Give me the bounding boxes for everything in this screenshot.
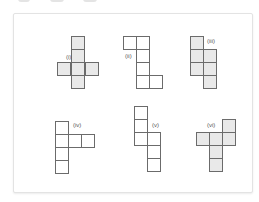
net-square: [135, 120, 148, 133]
net-square: [204, 63, 217, 76]
net-square: [137, 63, 150, 76]
net-square: [210, 146, 223, 159]
cube-net-6: (vi): [197, 120, 236, 172]
net-square: [197, 133, 210, 146]
net-square: [72, 37, 85, 50]
cube-nets-diagram: (i)(ii)(iii)(iv)(v)(vi): [0, 0, 259, 202]
net-square: [137, 76, 150, 89]
net-square: [210, 133, 223, 146]
net-square: [72, 50, 85, 63]
net-label: (ii): [125, 53, 132, 59]
net-square: [223, 133, 236, 146]
net-square: [56, 148, 69, 161]
net-square: [56, 122, 69, 135]
net-square: [191, 63, 204, 76]
net-square: [56, 161, 69, 174]
net-square: [58, 63, 71, 76]
net-square: [204, 76, 217, 89]
net-square: [191, 37, 204, 50]
net-square: [223, 120, 236, 133]
net-square: [204, 50, 217, 63]
net-square: [72, 76, 85, 89]
cube-net-2: (ii): [124, 37, 163, 89]
net-label: (iv): [73, 122, 81, 128]
cube-net-1: (i): [58, 37, 99, 89]
net-square: [135, 107, 148, 120]
net-square: [72, 63, 85, 76]
net-label: (vi): [207, 122, 215, 128]
net-square: [56, 135, 69, 148]
net-square: [135, 133, 148, 146]
cube-net-4: (iv): [56, 122, 95, 174]
net-square: [148, 159, 161, 172]
net-square: [148, 133, 161, 146]
net-square: [148, 146, 161, 159]
net-square: [137, 37, 150, 50]
net-square: [124, 37, 137, 50]
net-label: (v): [152, 122, 159, 128]
net-square: [86, 63, 99, 76]
net-label: (iii): [207, 38, 215, 44]
net-square: [82, 135, 95, 148]
cube-net-5: (v): [135, 107, 161, 172]
cube-net-3: (iii): [191, 37, 217, 89]
net-square: [191, 50, 204, 63]
net-square: [69, 135, 82, 148]
net-square: [210, 159, 223, 172]
net-square: [137, 50, 150, 63]
net-square: [150, 76, 163, 89]
net-label: (i): [66, 54, 71, 60]
